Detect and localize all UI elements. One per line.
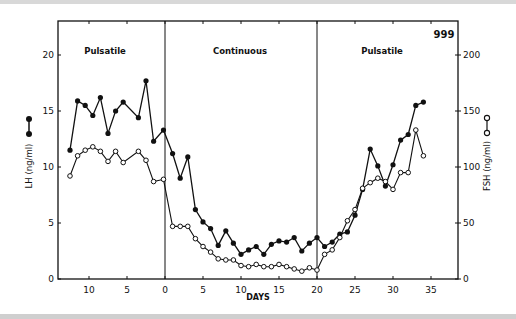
lh-data-point (90, 113, 95, 118)
fsh-data-point (284, 264, 289, 269)
lh-data-point (330, 239, 335, 244)
lh-data-point (398, 138, 403, 143)
right-y-tick-label: 200 (463, 50, 480, 60)
lh-data-point (390, 162, 395, 167)
lh-data-point (178, 176, 183, 181)
fsh-data-point (330, 248, 335, 253)
open-circle-icon (484, 115, 489, 120)
fsh-data-point (307, 266, 312, 271)
fsh-data-point (83, 148, 88, 153)
fsh-data-point (292, 267, 297, 272)
left-y-tick-label: 10 (43, 162, 55, 172)
fsh-data-point (300, 269, 305, 274)
x-tick-label: 25 (349, 285, 360, 295)
lh-data-point (113, 108, 118, 113)
left-y-tick-label: 15 (43, 106, 54, 116)
fsh-data-point (68, 174, 73, 179)
lh-data-point (143, 78, 148, 83)
right-y-axis-ticks: 050100150200 (455, 50, 480, 284)
lh-data-point (254, 244, 259, 249)
lh-data-point (83, 103, 88, 108)
x-tick-label: 10 (83, 285, 95, 295)
lh-data-point (208, 226, 213, 231)
fsh-data-point (254, 262, 259, 267)
lh-data-point (238, 252, 243, 257)
filled-circle-icon (26, 131, 32, 137)
lh-data-point (314, 235, 319, 240)
open-circle-icon (484, 130, 489, 135)
lh-data-point (246, 247, 251, 252)
lh-data-point (345, 229, 350, 234)
fsh-data-point (121, 160, 126, 165)
fsh-data-point (322, 252, 327, 257)
lh-data-point (406, 132, 411, 137)
left-y-tick-label: 20 (43, 50, 55, 60)
lh-data-point (151, 139, 156, 144)
fsh-data-point (216, 257, 221, 262)
lh-data-point (200, 219, 205, 224)
phase-dividers (165, 21, 317, 279)
lh-data-point (67, 148, 72, 153)
fsh-data-point (338, 235, 343, 240)
phase-label: Pulsatile (84, 46, 126, 56)
fsh-data-point (269, 264, 274, 269)
phase-label: Pulsatile (361, 46, 403, 56)
figure-label: 999 (434, 29, 455, 40)
fsh-data-point (277, 262, 282, 267)
fsh-data-point (398, 170, 403, 175)
x-tick-label: 0 (162, 285, 168, 295)
phase-labels: PulsatileContinuousPulsatile (84, 46, 403, 56)
fsh-data-point (106, 159, 111, 164)
fsh-data-point (144, 158, 149, 163)
x-tick-label: 15 (273, 285, 284, 295)
lh-series (67, 78, 426, 257)
lh-data-point (185, 154, 190, 159)
lh-data-point (105, 131, 110, 136)
fsh-data-point (376, 176, 381, 181)
right-y-tick-label: 50 (463, 218, 475, 228)
lh-data-point (421, 99, 426, 104)
x-tick-label: 30 (387, 285, 399, 295)
right-y-tick-label: 150 (463, 106, 480, 116)
lh-data-point (352, 213, 357, 218)
lh-data-point (121, 99, 126, 104)
lh-data-point (231, 241, 236, 246)
lh-data-point (269, 242, 274, 247)
x-tick-label: 35 (425, 285, 436, 295)
fsh-data-point (113, 149, 118, 154)
lh-data-point (161, 127, 166, 132)
lh-data-point (368, 146, 373, 151)
fsh-data-point (170, 224, 175, 229)
fsh-data-point (368, 180, 373, 185)
lh-data-point (322, 244, 327, 249)
x-tick-label: 20 (311, 285, 323, 295)
right-y-tick-label: 100 (463, 162, 480, 172)
fsh-data-point (315, 268, 320, 273)
fsh-data-point (231, 258, 236, 263)
fsh-data-point (193, 236, 198, 241)
fsh-data-point (421, 154, 426, 159)
fsh-data-point (136, 149, 141, 154)
lh-data-point (299, 248, 304, 253)
lh-data-point (284, 239, 289, 244)
lh-data-point (413, 103, 418, 108)
fsh-data-point (345, 218, 350, 223)
left-y-tick-label: 5 (48, 218, 54, 228)
fsh-data-point (178, 224, 183, 229)
right-y-axis-label: FSH (ng/ml) (482, 141, 492, 191)
left-axis-legend: LH (ng/ml) (24, 116, 34, 188)
data-series (67, 78, 426, 273)
x-axis-ticks: 10505101520253035 (83, 21, 436, 295)
lh-data-point (276, 238, 281, 243)
fsh-data-point (360, 186, 365, 191)
filled-circle-icon (26, 116, 32, 122)
fsh-data-point (383, 179, 388, 184)
fsh-data-point (186, 224, 191, 229)
lh-data-point (261, 252, 266, 257)
x-tick-label: 5 (200, 285, 206, 295)
fsh-data-point (151, 179, 156, 184)
fsh-data-point (262, 264, 267, 269)
right-axis-legend: FSH (ng/ml) (482, 115, 492, 191)
lh-data-point (375, 163, 380, 168)
fsh-data-point (239, 263, 244, 268)
